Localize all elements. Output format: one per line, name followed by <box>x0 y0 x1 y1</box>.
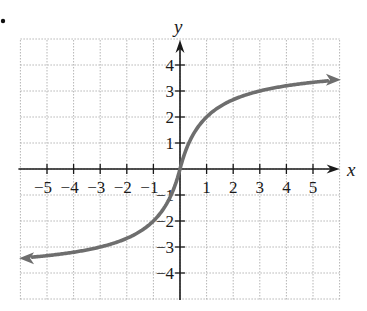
x-tick-label: 5 <box>309 178 318 197</box>
x-tick-label: −3 <box>87 178 105 197</box>
y-tick-label: 2 <box>166 108 175 127</box>
y-tick-label: −3 <box>156 238 174 257</box>
y-tick-label: −4 <box>156 264 175 283</box>
y-tick-label: 3 <box>166 82 175 101</box>
y-tick-label: 1 <box>166 134 175 153</box>
y-axis-label: y <box>172 16 183 37</box>
x-axis-label: x <box>346 159 356 180</box>
x-tick-label: 4 <box>282 178 291 197</box>
x-tick-label: −5 <box>34 178 52 197</box>
x-tick-label: 2 <box>229 178 238 197</box>
x-tick-label: 1 <box>202 178 211 197</box>
function-graph: −5−4−3−2−112345−4−3−2−11234 x y <box>0 0 367 311</box>
bullet-dot <box>1 19 5 23</box>
x-tick-label: 3 <box>256 178 265 197</box>
x-tick-label: −4 <box>61 178 80 197</box>
y-tick-label: 4 <box>166 56 175 75</box>
x-tick-label: −2 <box>114 178 132 197</box>
bullet-marker <box>1 19 5 23</box>
